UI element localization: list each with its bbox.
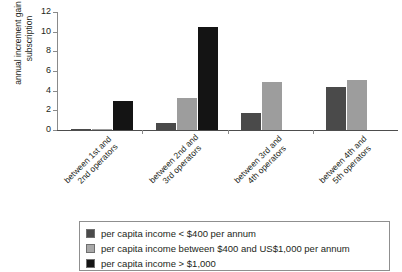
bar <box>177 98 197 130</box>
y-axis-tick-mark <box>53 12 57 13</box>
plot-area: 024681012 <box>57 12 398 130</box>
y-axis-title-line-2: subscription <box>23 16 33 61</box>
legend-swatch-icon <box>86 244 95 253</box>
x-axis-tick-mark <box>228 130 229 134</box>
legend-item-label: per capita income < $400 per annum <box>101 228 256 239</box>
y-axis-line <box>57 12 58 130</box>
legend-item: per capita income between $400 and US$1,… <box>86 241 383 256</box>
x-axis-category-label: between 1st and2nd operators <box>62 134 120 192</box>
y-axis-tick-mark <box>53 71 57 72</box>
x-axis-tick-mark <box>142 130 143 134</box>
y-axis-tick-mark <box>53 110 57 111</box>
y-axis-tick-label: 4 <box>46 85 51 95</box>
y-axis-tick-mark <box>53 51 57 52</box>
bar-group <box>326 12 388 130</box>
x-axis-category-label: between 2nd and3rd operators <box>147 132 207 192</box>
bar <box>198 27 218 130</box>
x-axis-category-label: between 4th and5th operators <box>317 134 376 193</box>
legend-swatch-icon <box>86 259 95 268</box>
x-axis-tick-mark <box>313 130 314 134</box>
bar <box>113 101 133 130</box>
y-axis-tick-mark <box>53 130 57 131</box>
y-axis-tick-label: 6 <box>46 65 51 75</box>
y-axis-tick-mark <box>53 91 57 92</box>
bar-group <box>241 12 303 130</box>
legend-item: per capita income > $1,000 <box>86 256 383 271</box>
y-axis-title: annual increment gain in subscription <box>13 0 34 95</box>
y-axis-tick-label: 0 <box>46 124 51 134</box>
x-axis-category-label: between 3rd and4th operators <box>232 133 291 192</box>
bar-group <box>71 12 133 130</box>
bar <box>241 113 261 130</box>
y-axis-tick-mark <box>53 32 57 33</box>
bar <box>92 129 112 130</box>
bar <box>71 129 91 130</box>
bar <box>156 123 176 130</box>
legend-swatch-icon <box>86 229 95 238</box>
chart-legend: per capita income < $400 per annum per c… <box>79 221 390 271</box>
y-axis-tick-label: 2 <box>46 104 51 114</box>
bar <box>262 82 282 130</box>
y-axis-tick-label: 8 <box>46 45 51 55</box>
bar <box>347 80 367 130</box>
legend-item: per capita income < $400 per annum <box>86 226 383 241</box>
bar-group <box>156 12 218 130</box>
y-axis-tick-label: 10 <box>41 26 51 36</box>
legend-item-label: per capita income between $400 and US$1,… <box>101 243 350 254</box>
legend-item-label: per capita income > $1,000 <box>101 258 216 269</box>
bar-chart-figure: annual increment gain in subscription by… <box>0 0 402 272</box>
y-axis-title-line-1: annual increment gain in <box>13 0 23 85</box>
bar <box>326 87 346 130</box>
y-axis-tick-label: 12 <box>41 6 51 16</box>
